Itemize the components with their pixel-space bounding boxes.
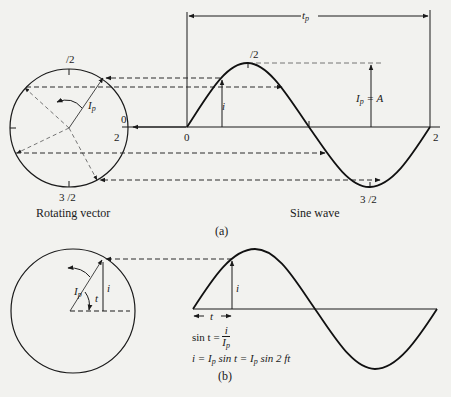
instant-label-a: i <box>222 100 225 112</box>
equation-1: sin t = i Ip <box>192 325 230 351</box>
wave-origin-label: 0 <box>184 131 190 143</box>
projection-lines-a <box>16 63 382 180</box>
period-label: tp <box>302 9 309 25</box>
vector-label-a: Ip <box>88 99 96 115</box>
sine-wave-caption: Sine wave <box>290 207 340 219</box>
panel-label-a: (a) <box>215 225 228 237</box>
time-label-b: t <box>210 310 213 322</box>
amplitude-label: Ip = A <box>356 92 383 108</box>
instant-label-b: i <box>107 282 110 294</box>
rotating-vector-caption: Rotating vector <box>36 207 110 219</box>
circle-2pi-label: 2 <box>114 131 120 143</box>
wave-end-label: 2 <box>433 131 439 143</box>
wave-trough-label: 3 /2 <box>360 193 377 205</box>
equation-2: i = Ip sin t = Ip sin 2 ft <box>192 352 290 368</box>
angle-label-b: t <box>95 292 98 304</box>
vector-label-b: Ip <box>74 285 82 301</box>
rotating-vector-circle-b <box>11 249 135 373</box>
panel-label-b: (b) <box>218 370 232 382</box>
circle-bottom-label: 3 /2 <box>59 191 76 203</box>
circle-zero-label: 0 <box>121 113 127 125</box>
wave-instant-label-b: i <box>236 282 239 294</box>
circle-top-label: /2 <box>66 53 75 65</box>
wave-peak-label: /2 <box>250 48 259 60</box>
